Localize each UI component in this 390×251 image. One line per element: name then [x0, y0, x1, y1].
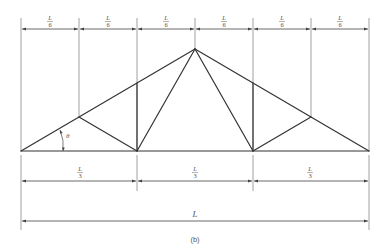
web-right-1 — [253, 117, 311, 151]
figure-caption: (b) — [190, 235, 200, 244]
svg-text:3: 3 — [308, 172, 311, 179]
dim-label-bottom-1: L 3 — [77, 165, 83, 179]
svg-text:L: L — [192, 165, 197, 172]
truss-members — [21, 49, 369, 151]
web-right-2 — [195, 49, 253, 151]
dim-label-top-4: L 6 — [221, 14, 227, 28]
svg-text:L: L — [47, 14, 52, 21]
svg-text:3: 3 — [78, 172, 81, 179]
dim-label-top-5: L 6 — [279, 14, 285, 28]
svg-text:6: 6 — [106, 21, 110, 28]
svg-text:L: L — [279, 14, 284, 21]
dim-label-top-3: L 6 — [163, 14, 169, 28]
svg-text:L: L — [163, 14, 168, 21]
top-chord-right — [195, 49, 369, 151]
bottom-dimension-labels: L 3 L 3 L 3 — [77, 165, 313, 179]
top-chord-left — [21, 49, 195, 151]
svg-text:L: L — [105, 14, 110, 21]
dim-label-top-1: L 6 — [47, 14, 53, 28]
web-left-2 — [137, 49, 195, 151]
dim-label-bottom-2: L 3 — [192, 165, 198, 179]
truss-diagram: L 6 L 6 L 6 L 6 L 6 L 6 — [0, 0, 390, 251]
angle-theta: θ — [60, 130, 70, 151]
svg-text:3: 3 — [193, 172, 196, 179]
svg-text:6: 6 — [222, 21, 226, 28]
dim-label-top-2: L 6 — [105, 14, 111, 28]
dim-label-top-6: L 6 — [337, 14, 343, 28]
svg-text:L: L — [77, 165, 82, 172]
svg-text:L: L — [337, 14, 342, 21]
extension-lines-top — [21, 18, 369, 151]
dim-label-bottom-3: L 3 — [307, 165, 313, 179]
svg-text:L: L — [221, 14, 226, 21]
svg-text:6: 6 — [164, 21, 168, 28]
overall-length-label: L — [191, 209, 197, 219]
svg-text:6: 6 — [338, 21, 342, 28]
theta-label: θ — [66, 132, 70, 140]
svg-text:6: 6 — [280, 21, 284, 28]
web-left-1 — [79, 117, 137, 151]
svg-text:L: L — [307, 165, 312, 172]
svg-text:6: 6 — [48, 21, 52, 28]
overall-dimension: L — [22, 209, 368, 221]
